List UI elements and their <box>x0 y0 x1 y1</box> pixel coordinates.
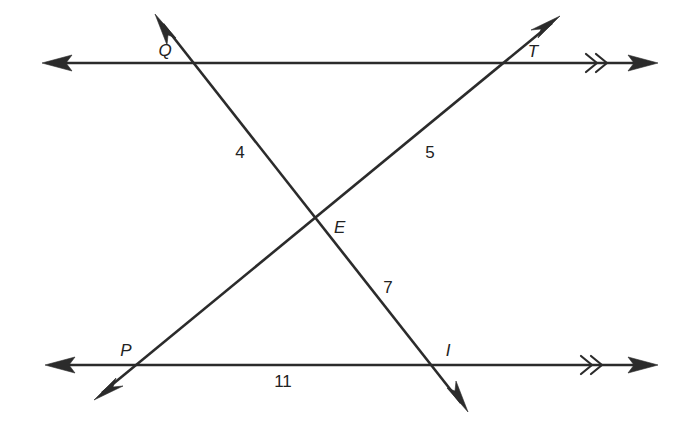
angle-label-4: 4 <box>235 143 244 162</box>
transversal-QI-bottom-arrowhead <box>447 381 468 412</box>
angle-label-11: 11 <box>274 372 292 391</box>
point-label-Q: Q <box>158 41 171 60</box>
transversal-PT-segment <box>102 23 552 393</box>
top-parallel-line <box>42 54 658 72</box>
point-label-E: E <box>334 218 346 237</box>
transversal-QI-segment <box>163 24 461 403</box>
point-label-T: T <box>528 42 540 61</box>
transversal-PT-top-arrowhead <box>531 16 560 38</box>
geometry-canvas: Q T E P I 4 5 7 11 <box>0 0 698 426</box>
transversal-line-QI <box>155 14 468 412</box>
angle-label-5: 5 <box>425 143 434 162</box>
point-label-P: P <box>120 341 132 360</box>
point-label-I: I <box>446 341 451 360</box>
transversal-PT-bottom-arrowhead <box>94 378 123 400</box>
transversal-line-PT <box>94 16 560 400</box>
angle-label-7: 7 <box>383 278 392 297</box>
geometry-diagram: Q T E P I 4 5 7 11 <box>0 0 698 426</box>
